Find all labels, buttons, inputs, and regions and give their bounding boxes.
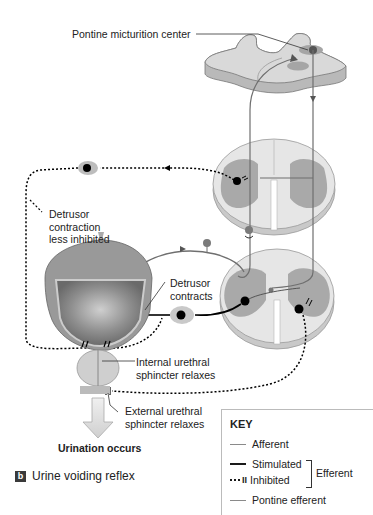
caption-badge: b [15, 471, 26, 482]
key-item-afferent: Afferent [230, 438, 289, 450]
key-item-inhibited: II Inhibited [230, 474, 290, 486]
key-title: KEY [230, 418, 253, 430]
spinal-cord-upper [213, 139, 335, 235]
urination-arrow-icon [83, 398, 113, 438]
figure-caption: b Urine voiding reflex [15, 469, 135, 483]
key-item-pontine-efferent: Pontine efferent [230, 494, 326, 506]
label-internal-sphincter: Internal urethral sphincter relaxes [136, 356, 215, 381]
key-group-efferent: Efferent [316, 467, 353, 480]
legend-key: KEY Afferent Stimulated II Inhibited Eff… [221, 409, 373, 515]
label-external-sphincter: External urethral sphincter relaxes [125, 405, 204, 430]
afferent-neuron-icon [245, 226, 253, 234]
inhibited-line-icon [230, 479, 240, 481]
block-bars-icon: II [242, 475, 247, 485]
key-item-stimulated: Stimulated [230, 458, 302, 470]
efferent-bracket [306, 460, 312, 488]
stimulated-line-icon [230, 463, 246, 465]
label-urination: Urination occurs [58, 442, 141, 455]
label-pontine-center: Pontine micturition center [72, 28, 190, 41]
caption-text: Urine voiding reflex [32, 469, 135, 483]
pons-section [205, 33, 346, 92]
label-detrusor-contracts: Detrusor contracts [170, 277, 213, 302]
pontine-efferent-line-icon [230, 500, 246, 501]
afferent-line-icon [230, 444, 246, 445]
label-detrusor-less-inhibited: Detrusor contraction less inhibited [49, 208, 110, 246]
